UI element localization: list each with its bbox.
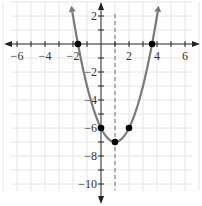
curve-left-arrow-icon — [69, 6, 76, 12]
y-tick-label: 2 — [91, 9, 97, 23]
y-tick-label: −2 — [84, 65, 97, 79]
parabola-graph: −6−4−2246 2−2−4−6−8−10 — [0, 0, 202, 206]
curve-right-arrow-icon — [154, 6, 161, 12]
key-point — [149, 41, 156, 48]
key-point — [75, 41, 82, 48]
x-tick-label: 6 — [182, 49, 188, 63]
x-tick-label: 4 — [154, 49, 160, 63]
key-point — [126, 125, 133, 132]
y-tick-label: −10 — [78, 177, 97, 191]
y-tick-label: −8 — [84, 149, 97, 163]
y-axis-up-arrow-icon — [98, 2, 104, 10]
y-tick-label: −6 — [84, 121, 97, 135]
y-axis — [98, 2, 104, 204]
x-tick-label: 2 — [126, 49, 132, 63]
x-tick-label: −2 — [67, 49, 80, 63]
key-point — [98, 125, 105, 132]
x-axis — [4, 41, 200, 47]
x-tick-label: −6 — [11, 49, 24, 63]
x-tick-label: −4 — [39, 49, 52, 63]
x-axis-left-arrow-icon — [4, 41, 12, 47]
key-point — [112, 139, 119, 146]
x-tick-labels: −6−4−2246 — [11, 49, 188, 63]
y-axis-down-arrow-icon — [98, 196, 104, 204]
